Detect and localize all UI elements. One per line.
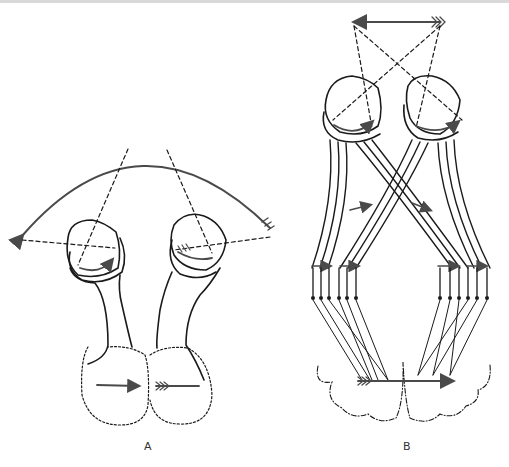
- right-eye: [170, 214, 226, 277]
- left-brain-arrow: [97, 385, 138, 386]
- panel-label-b: B: [403, 440, 411, 453]
- panel-label-a: A: [144, 440, 152, 453]
- panel-a: [22, 149, 274, 425]
- right-eye-b: [404, 76, 460, 140]
- optic-radiations: [313, 300, 487, 380]
- optic-fibers: [312, 140, 490, 268]
- projection-lines-b: [333, 26, 462, 128]
- panel-b: [311, 17, 490, 421]
- left-eye-b: [323, 76, 381, 142]
- fletching-icon: [262, 218, 274, 230]
- visual-field-arc: [22, 166, 270, 236]
- optic-nerves: [70, 268, 220, 380]
- relay-fibers: [313, 268, 487, 296]
- synapse-dots: [311, 296, 489, 300]
- diagram-canvas: [0, 0, 509, 467]
- left-eye: [67, 220, 124, 282]
- visual-cortex: [317, 362, 490, 421]
